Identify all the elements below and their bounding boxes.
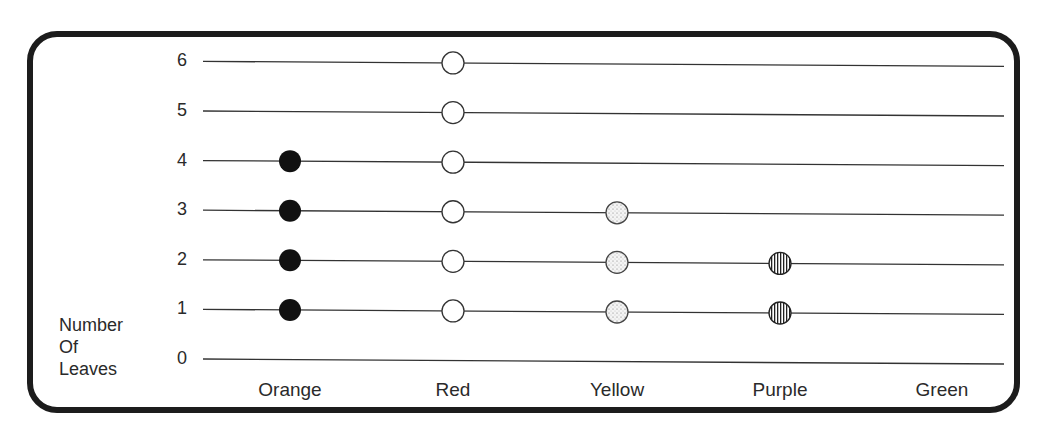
y-tick-label: 2 [157,249,187,270]
hatched-dot-icon [769,252,791,274]
gridline-3 [203,210,1004,215]
x-category-red: Red [436,379,471,401]
gridlines [203,61,1004,364]
y-tick-label: 4 [157,150,187,171]
gridline-1 [203,309,1004,314]
open-dot-icon [442,300,464,322]
open-dot-icon [442,201,464,223]
gridline-0 [203,359,1004,364]
solid-dot-icon [279,299,301,321]
gridline-6 [203,61,1004,66]
y-axis-label-line: Number [59,314,123,336]
open-dot-icon [442,151,464,173]
solid-dot-icon [279,150,301,172]
y-tick-label: 5 [157,100,187,121]
stippled-dot-icon [606,301,628,323]
solid-dot-icon [279,249,301,271]
x-category-green: Green [916,379,969,401]
open-dot-icon [442,250,464,272]
open-dot-icon [442,52,464,74]
x-category-orange: Orange [258,379,321,401]
dot-plot [0,0,1039,434]
y-axis-label-line: Leaves [59,358,123,380]
y-tick-label: 6 [157,50,187,71]
hatched-dot-icon [769,302,791,324]
stippled-dot-icon [606,251,628,273]
y-tick-label: 1 [157,298,187,319]
solid-dot-icon [279,200,301,222]
gridline-4 [203,161,1004,166]
data-dots [279,52,791,324]
gridline-5 [203,111,1004,116]
y-tick-label: 3 [157,199,187,220]
y-axis-label-line: Of [59,336,123,358]
y-tick-label: 0 [157,348,187,369]
y-axis-label: Number Of Leaves [59,314,123,380]
stippled-dot-icon [606,202,628,224]
gridline-2 [203,260,1004,265]
x-category-purple: Purple [753,379,808,401]
x-category-yellow: Yellow [590,379,644,401]
open-dot-icon [442,102,464,124]
